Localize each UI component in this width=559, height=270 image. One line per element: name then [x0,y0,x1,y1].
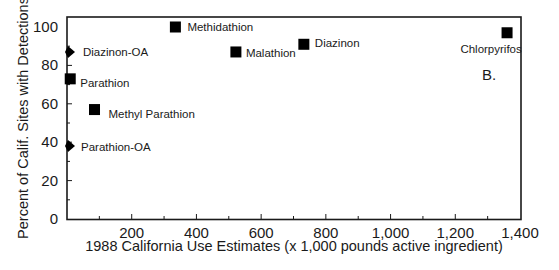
y-tick-label: 0 [50,210,58,227]
data-point: Diazinon [298,37,359,50]
y-tick-label: 100 [33,18,58,35]
point-label: Diazinon-OA [83,46,149,58]
x-axis-title: 1988 California Use Estimates (x 1,000 p… [85,238,503,254]
square-marker-icon [170,22,181,33]
x-axis-ticks: 2004006008001,0001,2001,400 [99,214,538,241]
panel-label: B. [482,66,496,83]
square-marker-icon [502,27,513,38]
y-tick-label: 80 [41,56,58,73]
data-point: Malathion [230,46,295,59]
y-axis-title: Percent of Calif. Sites with Detections [15,0,31,239]
data-point: Methyl Parathion [89,104,195,120]
y-axis-ticks: 020406080100 [33,18,72,227]
square-marker-icon [65,73,76,84]
x-tick-label: 1,400 [501,224,539,241]
point-label: Malathion [246,47,296,59]
square-marker-icon [298,39,309,50]
point-label: Methyl Parathion [109,108,195,120]
scatter-chart: 2004006008001,0001,2001,400 020406080100… [0,0,559,270]
data-point: Chlorpyrifos [460,27,522,54]
data-point: Parathion [65,73,130,89]
y-tick-label: 40 [41,133,58,150]
y-tick-label: 20 [41,172,58,189]
point-label: Diazinon [315,37,360,49]
data-points: MethidathionMalathionDiazinonChlorpyrifo… [65,21,522,153]
y-tick-label: 60 [41,95,58,112]
data-point: Diazinon-OA [65,46,149,58]
square-marker-icon [89,104,100,115]
point-label: Parathion-OA [81,141,151,153]
square-marker-icon [230,46,241,57]
data-point: Parathion-OA [65,140,151,153]
data-point: Methidathion [170,21,253,33]
point-label: Methidathion [187,21,253,33]
point-label: Parathion [80,77,129,89]
point-label: Chlorpyrifos [460,43,522,55]
